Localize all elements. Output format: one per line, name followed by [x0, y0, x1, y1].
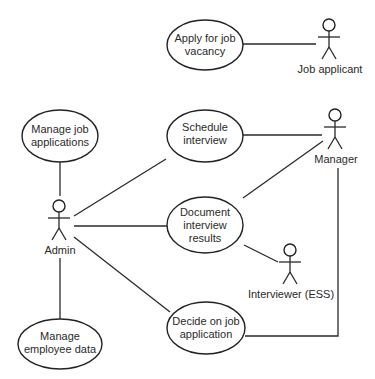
assoc-interviewer-document — [244, 245, 278, 262]
use-case-apply[interactable]: Apply for job vacancy — [167, 20, 243, 70]
actor-admin[interactable]: Admin — [44, 200, 75, 256]
stick-figure-icon — [324, 109, 346, 149]
actor-label: Admin — [44, 244, 75, 256]
use-case-label: Apply for job — [174, 32, 235, 44]
actor-label: Manager — [314, 153, 358, 165]
use-case-manage-job-applications[interactable]: Manage job applications — [22, 110, 98, 162]
stick-figure-icon — [48, 200, 70, 240]
actor-interviewer-ess[interactable]: Interviewer (ESS) — [248, 244, 334, 300]
assoc-manager-document — [243, 141, 323, 198]
assoc-admin-decide — [74, 237, 170, 312]
use-case-schedule-interview[interactable]: Schedule interview — [167, 110, 243, 162]
use-case-label: Manage job — [31, 123, 89, 135]
actor-manager[interactable]: Manager — [314, 109, 358, 165]
stick-figure-icon — [279, 244, 301, 284]
use-case-label: applications — [31, 136, 90, 148]
assoc-admin-schedule — [74, 159, 166, 216]
stick-figure-icon — [318, 19, 340, 59]
actor-job-applicant[interactable]: Job applicant — [298, 19, 363, 75]
use-case-label: Schedule — [182, 121, 228, 133]
actor-label: Interviewer (ESS) — [248, 288, 334, 300]
use-case-label: employee data — [24, 343, 97, 355]
use-case-label: interview — [183, 219, 226, 231]
use-case-label: Document — [180, 206, 230, 218]
use-case-label: vacancy — [185, 45, 226, 57]
use-case-label: interview — [183, 134, 226, 146]
use-case-manage-employee-data[interactable]: Manage employee data — [18, 319, 102, 369]
use-case-diagram: Apply for job vacancy Manage job applica… — [0, 0, 375, 379]
actor-label: Job applicant — [298, 63, 363, 75]
use-case-document-interview-results[interactable]: Document interview results — [167, 197, 243, 253]
use-case-label: Manage — [40, 330, 80, 342]
use-case-label: results — [189, 232, 222, 244]
use-case-decide-on-job-application[interactable]: Decide on job application — [167, 302, 245, 354]
use-case-label: Decide on job — [172, 315, 239, 327]
use-case-label: application — [180, 328, 233, 340]
